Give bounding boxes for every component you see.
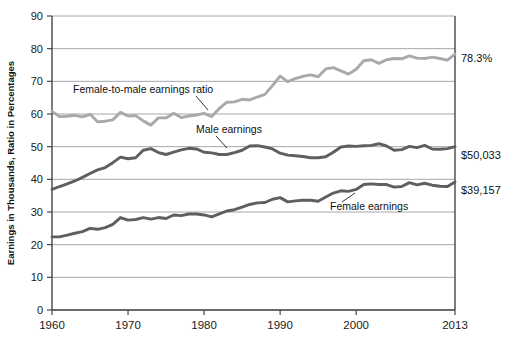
y-tick-label: 90 [31,10,43,22]
end-label-male-earnings: $50,033 [461,149,501,161]
y-tick-label: 50 [31,141,43,153]
y-tick-label: 0 [37,304,43,316]
x-tick-label: 2013 [442,319,468,331]
y-tick-label: 60 [31,108,43,120]
annotation-male-label: Male earnings [196,123,262,135]
annotation-ratio-label: Female-to-male earnings ratio [73,83,213,95]
line-chart: 0102030405060708090 19601970198019902000… [0,0,508,340]
annotation-female-label: Female earnings [330,200,408,212]
y-tick-label: 40 [31,173,43,185]
y-axis-ticks: 0102030405060708090 [31,10,52,316]
y-axis-title: Earnings in Thousands, Ratio in Percenta… [5,61,16,265]
series-line-male-earnings [52,144,455,190]
y-tick-label: 20 [31,239,43,251]
x-tick-label: 1960 [39,319,65,331]
end-label-female-earnings: $39,157 [461,184,501,196]
x-tick-label: 1990 [267,319,293,331]
end-label-ratio: 78.3% [461,52,492,64]
y-tick-label: 10 [31,271,43,283]
x-tick-label: 1980 [191,319,217,331]
x-tick-label: 1970 [115,319,141,331]
x-axis-ticks: 196019701980199020002013 [39,310,468,331]
chart-container: 0102030405060708090 19601970198019902000… [0,0,508,340]
y-tick-label: 80 [31,43,43,55]
leader-line-male [216,136,227,148]
y-tick-label: 30 [31,206,43,218]
x-tick-label: 2000 [343,319,369,331]
leader-line-ratio [196,96,208,110]
y-tick-label: 70 [31,75,43,87]
